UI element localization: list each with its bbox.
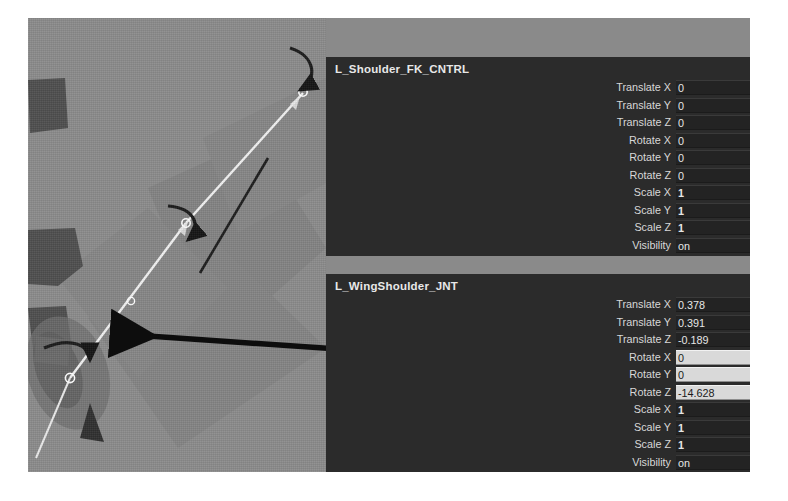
attribute-value[interactable]: 0 [676,168,750,183]
channel-box-panel-shoulder-fk-cntrl[interactable]: L_Shoulder_FK_CNTRL Translate X0Translat… [326,57,750,256]
attribute-label: Rotate Y [562,366,676,384]
attribute-value[interactable]: 0.378 [676,297,750,312]
attribute-label: Translate X [562,79,676,97]
attribute-value[interactable]: 0.391 [676,315,750,330]
attribute-value[interactable]: 0 [676,350,750,365]
attribute-value[interactable]: on [676,455,750,470]
attribute-label: Translate X [562,296,676,314]
panel-title: L_Shoulder_FK_CNTRL [335,63,469,75]
attribute-label: Visibility [562,237,676,255]
attribute-row[interactable]: Translate Y0 [562,97,750,115]
attribute-value[interactable]: 1 [676,402,750,417]
viewport-canvas [28,18,326,472]
attribute-label: Translate Z [562,114,676,132]
attribute-row[interactable]: Translate X0 [562,79,750,97]
rotation-arrow-upper [290,48,312,90]
attribute-row[interactable]: Scale X1 [562,184,750,202]
attribute-label: Translate Y [562,314,676,332]
attribute-label: Rotate Z [562,167,676,185]
attribute-label: Scale X [562,401,676,419]
attribute-value[interactable]: 0 [676,98,750,113]
attribute-value[interactable]: 0 [676,150,750,165]
dark-geometry-blocks [28,78,83,358]
attribute-row[interactable]: Translate Y0.391 [562,314,750,332]
attribute-list: Translate X0.378Translate Y0.391Translat… [562,296,750,471]
3d-viewport[interactable] [28,18,326,472]
attribute-value[interactable]: 0 [676,133,750,148]
attribute-value[interactable]: 1 [676,203,750,218]
attribute-row[interactable]: Scale X1 [562,401,750,419]
attribute-label: Rotate X [562,132,676,150]
attribute-row[interactable]: Translate Z-0.189 [562,331,750,349]
application-content: L_Shoulder_FK_CNTRL Translate X0Translat… [28,18,750,472]
attribute-value[interactable]: 0 [676,367,750,382]
attribute-row[interactable]: Translate Z0 [562,114,750,132]
attribute-label: Translate Z [562,331,676,349]
attribute-value[interactable]: on [676,238,750,253]
attribute-row[interactable]: Rotate Z-14.628 [562,384,750,402]
attribute-label: Scale X [562,184,676,202]
channel-box-panel-wingshoulder-jnt[interactable]: L_WingShoulder_JNT Translate X0.378Trans… [326,274,750,472]
attribute-value[interactable]: 1 [676,420,750,435]
attribute-row[interactable]: Scale Z1 [562,436,750,454]
panel-title: L_WingShoulder_JNT [335,280,458,292]
attribute-label: Scale Z [562,436,676,454]
attribute-row[interactable]: Rotate Y0 [562,149,750,167]
attribute-row[interactable]: Translate X0.378 [562,296,750,314]
screenshot-root: L_Shoulder_FK_CNTRL Translate X0Translat… [0,0,788,501]
attribute-row[interactable]: Visibilityon [562,237,750,255]
attribute-value[interactable]: 1 [676,220,750,235]
attribute-label: Rotate X [562,349,676,367]
attribute-label: Rotate Z [562,384,676,402]
attribute-label: Translate Y [562,97,676,115]
attribute-value[interactable]: 1 [676,437,750,452]
attribute-label: Rotate Y [562,149,676,167]
attribute-label: Scale Z [562,219,676,237]
attribute-value[interactable]: 0 [676,115,750,130]
attribute-value[interactable]: 1 [676,185,750,200]
attribute-value[interactable]: 0 [676,80,750,95]
attribute-label: Scale Y [562,202,676,220]
attribute-row[interactable]: Scale Y1 [562,202,750,220]
attribute-row[interactable]: Rotate Y0 [562,366,750,384]
attribute-row[interactable]: Rotate Z0 [562,167,750,185]
attribute-row[interactable]: Visibilityon [562,454,750,472]
attribute-value[interactable]: -14.628 [676,385,750,400]
attribute-label: Visibility [562,454,676,472]
attribute-list: Translate X0Translate Y0Translate Z0Rota… [562,79,750,254]
attribute-row[interactable]: Rotate X0 [562,132,750,150]
attribute-row[interactable]: Scale Z1 [562,219,750,237]
attribute-row[interactable]: Rotate X0 [562,349,750,367]
attribute-value[interactable]: -0.189 [676,332,750,347]
attribute-label: Scale Y [562,419,676,437]
attribute-row[interactable]: Scale Y1 [562,419,750,437]
panel-divider [326,256,750,274]
